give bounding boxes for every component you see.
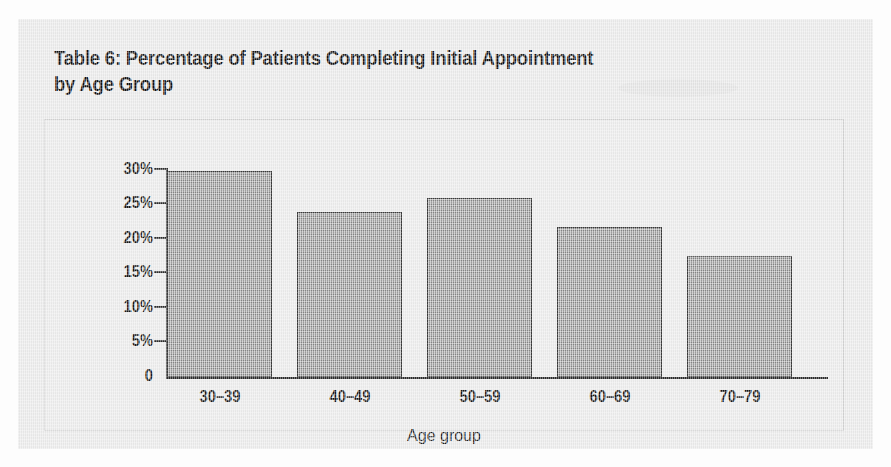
y-tick-15	[154, 271, 167, 273]
scanned-page: Table 6: Percentage of Patients Completi…	[18, 19, 873, 449]
page-title: Table 6: Percentage of Patients Completi…	[54, 45, 702, 97]
plot-area	[167, 170, 815, 377]
x-axis-label-50-59: 50–59	[420, 388, 540, 406]
y-tick-30	[154, 168, 167, 170]
x-axis-label-60-69: 60–69	[550, 388, 670, 406]
title-line-2: by Age Group	[54, 72, 173, 95]
y-axis-label-5: 5%	[89, 332, 153, 350]
bar-30-39[interactable]	[167, 171, 272, 377]
bar-70-79[interactable]	[687, 256, 792, 377]
title-line-1: Table 6: Percentage of Patients Completi…	[54, 46, 593, 69]
x-axis-line	[166, 377, 828, 379]
chart-figure: 30% 25% 20% 15% 10% 5% 0 30–39 40–49 50–…	[44, 119, 844, 431]
y-axis-label-0: 0	[89, 367, 153, 385]
y-axis-label-20: 20%	[89, 229, 153, 247]
x-axis-label-30-39: 30–39	[160, 388, 280, 406]
y-tick-25	[154, 202, 167, 204]
y-tick-5	[154, 340, 167, 342]
screenshot-root: Table 6: Percentage of Patients Completi…	[0, 0, 891, 467]
bar-40-49[interactable]	[297, 212, 402, 377]
x-axis-label-70-79: 70–79	[680, 388, 800, 406]
bar-50-59[interactable]	[427, 198, 532, 377]
y-axis-label-25: 25%	[89, 194, 153, 212]
y-axis-label-30: 30%	[89, 160, 153, 178]
x-axis-title: Age group	[69, 426, 819, 446]
y-tick-10	[154, 306, 167, 308]
y-axis-label-10: 10%	[89, 298, 153, 316]
y-axis-label-15: 15%	[89, 263, 153, 281]
x-axis-label-40-49: 40–49	[290, 388, 410, 406]
bar-60-69[interactable]	[557, 227, 662, 377]
y-tick-20	[154, 237, 167, 239]
